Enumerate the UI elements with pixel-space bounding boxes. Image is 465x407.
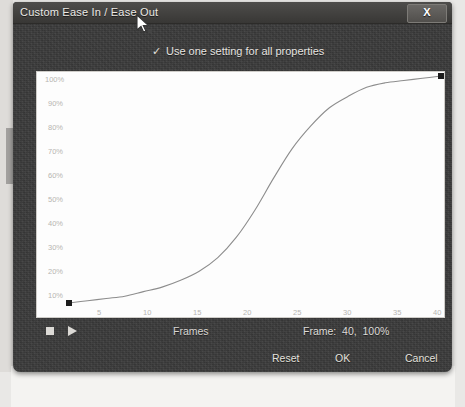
curve-end-handle[interactable] [438,73,444,79]
y-tick-100: 100% [45,75,65,84]
ease-curve-line [69,76,441,303]
frames-axis-label: Frames [173,325,209,337]
y-tick-30: 30% [48,243,63,252]
dialog-title: Custom Ease In / Ease Out [20,6,158,18]
x-tick-20: 20 [243,308,251,317]
page-bottom-plate [11,366,455,407]
x-tick-35: 35 [393,308,401,317]
y-tick-10: 10% [48,291,63,300]
checkmark-icon: ✓ [152,46,161,57]
y-tick-50: 50% [48,195,63,204]
panel-scrollbar-thumb[interactable] [6,128,13,184]
play-icon[interactable] [68,326,77,336]
y-axis-labels: 100% 90% 80% 70% 60% 50% 40% 30% 20% 10% [45,75,65,300]
x-tick-40: 40 [433,308,441,317]
reset-button[interactable]: Reset [266,350,305,366]
x-tick-30: 30 [343,308,351,317]
cancel-button[interactable]: Cancel [399,350,444,366]
x-tick-5: 5 [97,308,101,317]
y-tick-70: 70% [48,147,63,156]
x-tick-10: 10 [143,308,151,317]
y-tick-40: 40% [48,219,63,228]
y-tick-60: 60% [48,171,63,180]
x-tick-25: 25 [293,308,301,317]
use-one-setting-checkbox[interactable]: ✓ Use one setting for all properties [152,45,324,57]
close-icon: X [408,6,446,18]
ease-curve-graph[interactable]: 100% 90% 80% 70% 60% 50% 40% 30% 20% 10%… [36,71,445,318]
close-button[interactable]: X [407,4,447,23]
x-tick-15: 15 [193,308,201,317]
left-panel-strip [0,0,13,372]
ease-curve-plot: 100% 90% 80% 70% 60% 50% 40% 30% 20% 10%… [37,72,444,317]
frame-status-readout: Frame: 40, 100% [303,325,389,337]
curve-start-handle[interactable] [66,300,72,306]
dialog-actions: Reset OK Cancel [13,346,452,372]
ok-button[interactable]: OK [329,350,356,366]
x-axis-labels: 5 10 15 20 25 30 35 40 [97,308,441,317]
y-tick-20: 20% [48,267,63,276]
transport-bar: Frames Frame: 40, 100% [13,322,452,344]
stop-icon[interactable] [46,327,54,335]
custom-ease-dialog: Custom Ease In / Ease Out X ✓ Use one se… [13,2,452,372]
y-tick-90: 90% [48,99,63,108]
use-one-setting-label: Use one setting for all properties [166,45,324,57]
y-tick-80: 80% [48,123,63,132]
options-row: ✓ Use one setting for all properties [13,23,452,67]
dialog-title-bar[interactable]: Custom Ease In / Ease Out X [13,2,452,24]
